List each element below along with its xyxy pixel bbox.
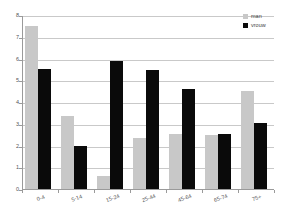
x-axis-tick-mark	[274, 190, 275, 193]
bar-vrouw-75+	[254, 123, 267, 189]
bar-group	[25, 16, 51, 189]
legend-label: man	[251, 14, 262, 20]
bar-man-65-74	[205, 135, 218, 189]
bar-vrouw-65-74	[218, 134, 231, 189]
x-axis-tick-mark	[22, 190, 23, 193]
plot-area	[22, 16, 274, 190]
chart-legend: manvrouw	[243, 14, 266, 28]
legend-label: vrouw	[251, 23, 266, 29]
y-axis-tick-label: 0	[5, 187, 19, 193]
legend-swatch-icon	[243, 23, 248, 28]
bar-chart: 012345678 0-45-1415-2425-4445-6465-7475+…	[0, 0, 300, 218]
x-axis-tick-mark	[94, 190, 95, 193]
bar-man-25-44	[133, 138, 146, 189]
y-axis-tick-label: 2	[5, 144, 19, 150]
x-axis-tick-mark	[238, 190, 239, 193]
y-axis-tick-label: 1	[5, 165, 19, 171]
x-axis-tick-mark	[130, 190, 131, 193]
bar-vrouw-0-4	[38, 69, 51, 189]
y-axis-tick-label: 5	[5, 78, 19, 84]
x-axis-tick-mark	[202, 190, 203, 193]
bar-group	[205, 16, 231, 189]
y-axis-tick-label: 8	[5, 13, 19, 19]
bar-vrouw-15-24	[110, 61, 123, 189]
y-axis-tick-label: 3	[5, 122, 19, 128]
bar-group	[97, 16, 123, 189]
bar-group	[241, 16, 267, 189]
y-axis-tick-label: 7	[5, 35, 19, 41]
bar-vrouw-45-64	[182, 89, 195, 189]
bar-group	[169, 16, 195, 189]
legend-swatch-icon	[243, 14, 248, 19]
bar-vrouw-5-14	[74, 146, 87, 190]
x-axis-tick-mark	[166, 190, 167, 193]
bar-man-15-24	[97, 176, 110, 189]
bar-man-75+	[241, 91, 254, 189]
bar-man-45-64	[169, 134, 182, 189]
bar-vrouw-25-44	[146, 70, 159, 189]
x-axis-tick-mark	[58, 190, 59, 193]
bar-man-5-14	[61, 116, 74, 189]
legend-entry-man[interactable]: man	[243, 14, 266, 20]
bar-man-0-4	[25, 26, 38, 189]
legend-entry-vrouw[interactable]: vrouw	[243, 23, 266, 29]
bar-group	[133, 16, 159, 189]
bar-group	[61, 16, 87, 189]
y-axis-tick-label: 6	[5, 57, 19, 63]
y-axis-tick-label: 4	[5, 100, 19, 106]
